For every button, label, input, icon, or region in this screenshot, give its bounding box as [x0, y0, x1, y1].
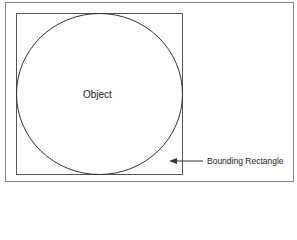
- bounding-rectangle-label: Bounding Rectangle: [207, 156, 284, 166]
- object-label: Object: [83, 89, 112, 100]
- arrow-head-icon: [169, 158, 177, 164]
